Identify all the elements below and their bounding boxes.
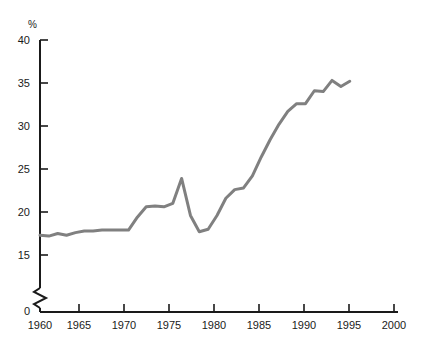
- x-tick-marks: [79, 304, 394, 312]
- y-tick-label-35: 35: [4, 78, 30, 89]
- x-tick-label-1995: 1995: [329, 320, 369, 331]
- y-tick-label-15: 15: [4, 250, 30, 261]
- x-tick-label-1985: 1985: [239, 320, 279, 331]
- chart-canvas: [0, 0, 434, 349]
- y-tick-label-20: 20: [4, 207, 30, 218]
- y-axis-unit-label: %: [28, 20, 37, 30]
- y-tick-label-30: 30: [4, 121, 30, 132]
- x-tick-label-1965: 1965: [59, 320, 99, 331]
- x-tick-label-1970: 1970: [104, 320, 144, 331]
- y-tick-marks: [40, 40, 48, 255]
- x-tick-label-2000: 2000: [374, 320, 414, 331]
- x-tick-label-1975: 1975: [149, 320, 189, 331]
- data-series-line: [40, 80, 350, 236]
- y-tick-label-40: 40: [4, 35, 30, 46]
- y-axis-break-marker: [34, 288, 46, 308]
- line-chart: % 40 35 30 25 20 15 0 1960 1965 1970 197…: [0, 0, 434, 349]
- x-tick-label-1980: 1980: [194, 320, 234, 331]
- x-tick-label-1990: 1990: [284, 320, 324, 331]
- y-tick-label-0: 0: [4, 306, 30, 317]
- x-tick-label-1960: 1960: [20, 320, 60, 331]
- y-tick-label-25: 25: [4, 164, 30, 175]
